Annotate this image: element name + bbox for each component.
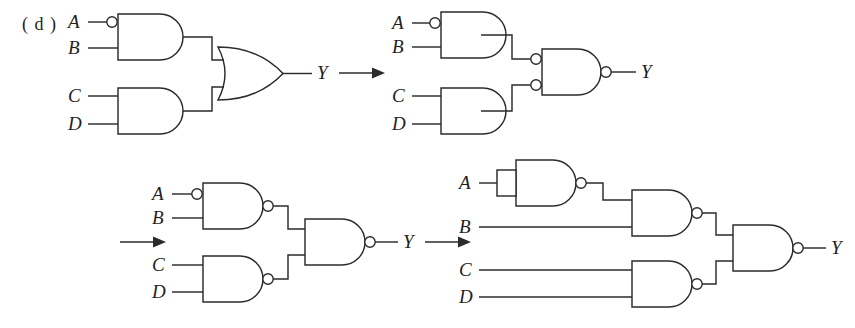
output-bubble-stage3 [365,237,375,247]
or-gate-output-stage1 [218,47,283,100]
nand-gate-cd-stage4 [479,261,702,307]
input-bubble-top-stage2 [531,54,541,64]
output-label-y-stage1: Y [317,63,328,82]
input-label-b-stage4: B [459,217,471,236]
input-label-b-stage2: B [392,37,404,56]
output-label-y-stage3: Y [403,232,414,251]
output-bubble-nand-cd-stage3 [263,274,273,284]
tied-input-stub-stage4 [497,170,516,196]
input-label-a-stage4: A [459,173,471,192]
input-bubble-a-stage3 [192,189,202,199]
nand-gate-ab-stage4 [479,190,702,236]
input-label-a-stage3: A [152,184,164,203]
input-label-a-stage2: A [392,13,404,32]
input-bubble-a-stage1 [107,17,117,27]
stage-1-group [88,14,312,134]
input-label-d-stage1: D [68,114,82,133]
output-bubble-nand-ab-stage3 [263,201,273,211]
wire-nand-cd-to-out-stage4 [702,261,733,284]
arrow-stage3-to-stage4 [425,237,471,248]
input-label-b-stage3: B [152,208,164,227]
output-bubble-nand-cd-stage4 [692,279,702,289]
wire-inverter-to-nand-stage4 [586,183,632,200]
input-label-d-stage2: D [392,114,406,133]
input-label-c-stage2: C [392,86,405,105]
arrow-stage2-to-stage3 [120,237,166,248]
input-label-c-stage4: C [459,260,472,279]
nand-gate-output-stage3 [305,219,375,265]
output-bubble-stage4 [793,243,803,253]
wire-nand-ab-to-out-stage4 [702,213,733,235]
input-label-b-stage1: B [68,38,80,57]
nand-gate-ab-stage3 [172,183,273,229]
nand-gate-output-stage4 [733,225,803,271]
output-bubble-stage2 [601,67,611,77]
output-bubble-inverter-stage4 [576,178,586,188]
arrow-stage1-to-stage2 [339,68,385,79]
output-label-y-stage2: Y [641,62,652,81]
wire-nand-cd-to-out-stage3 [273,255,305,279]
input-label-a-stage1: A [68,12,80,31]
input-bubble-a-stage2 [430,18,440,28]
input-label-c-stage1: C [68,86,81,105]
and-gate-ab-stage1 [88,14,183,60]
nand-gate-inverter-a-stage4 [479,160,586,206]
input-label-c-stage3: C [152,255,165,274]
output-bubble-nand-ab-stage4 [692,208,702,218]
part-label: ( d ) [22,14,57,35]
logic-circuit-figure: ( d ) A B C D Y A B C D Y A B C D Y A B … [0,0,855,328]
nand-gate-cd-stage3 [172,256,273,302]
input-bubble-bottom-stage2 [531,80,541,90]
stage-3-group [172,183,398,302]
wire-nand-ab-to-out-stage3 [273,206,305,229]
stage-2-group [412,12,636,134]
circuit-canvas [0,0,855,328]
wire-and-ab-to-or-stage1 [183,37,224,60]
input-label-d-stage3: D [152,282,166,301]
input-label-d-stage4: D [459,287,473,306]
nand-gate-output-stage2 [531,49,611,95]
stage-4-group [479,160,826,307]
and-gate-cd-stage1 [88,88,183,134]
output-label-y-stage4: Y [831,238,842,257]
